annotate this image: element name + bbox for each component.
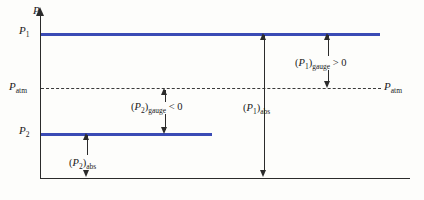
p1-abs-arrow-stem-lower <box>264 116 265 171</box>
annotation-p2-gauge: (P2)gauge < 0 <box>131 102 183 113</box>
pressure-diagram-figure: P P1 Patm P2 Patm (P2)gauge < 0 (P1)gaug… <box>0 0 424 200</box>
p2-abs-arrowhead-up-icon <box>83 133 89 140</box>
p1-gauge-arrowhead-up-icon <box>324 33 330 40</box>
axis-label-p1: P1 <box>19 25 29 36</box>
p1-abs-arrowhead-up-icon <box>260 33 266 40</box>
p2-gauge-arrowhead-down-icon <box>161 127 167 134</box>
axis-label-p2-base: P <box>19 124 26 136</box>
axis-label-patm-right-subscript: atm <box>391 86 402 95</box>
pressure-level-line-p2 <box>41 133 212 136</box>
p2-gauge-arrowhead-up-icon <box>161 88 167 95</box>
atmospheric-pressure-dashed-line <box>41 88 381 89</box>
axis-label-patm-right-base: P <box>384 80 391 92</box>
axis-label-p1-subscript: 1 <box>26 30 30 39</box>
annotation-p2-abs: (P2)abs <box>69 158 96 169</box>
axis-label-p1-base: P <box>19 24 26 36</box>
p2-abs-arrowhead-down-icon <box>83 170 89 177</box>
axis-label-p2: P2 <box>19 125 29 136</box>
y-axis-label: P <box>33 5 40 16</box>
y-axis-line <box>40 14 41 178</box>
annotation-p1-abs: (P1)abs <box>243 103 270 114</box>
axis-label-patm-left-subscript: atm <box>16 86 27 95</box>
axis-label-p2-subscript: 2 <box>26 130 30 139</box>
axis-label-patm-right: Patm <box>384 81 402 92</box>
annotation-p1-gauge: (P1)gauge > 0 <box>295 58 347 69</box>
p1-abs-arrowhead-down-icon <box>260 170 266 177</box>
p1-gauge-arrowhead-down-icon <box>324 81 330 88</box>
axis-label-patm-left: Patm <box>9 81 27 92</box>
p1-abs-arrow-stem-upper <box>264 35 265 101</box>
x-axis-line <box>40 178 410 179</box>
axis-label-patm-left-base: P <box>9 80 16 92</box>
